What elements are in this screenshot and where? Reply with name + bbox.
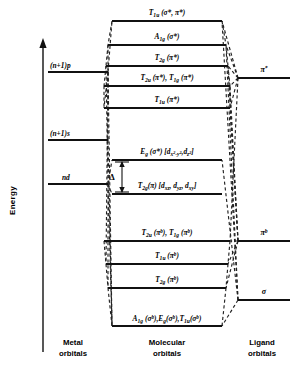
corr-p-to-t1u-star [108,21,112,72]
mo-level-sigma-b-label: A1g (σb),Eg(σb),T1u(σb) [132,314,202,324]
caption-molecular-line1: Molecular [149,338,185,347]
energy-axis: Energy [8,38,47,352]
mo-level-t2g-star-label: T2g (π*) [155,53,180,63]
mo-level-t1u-star-label: T1u (σ*, π*) [149,8,185,18]
metal-level-p-label: (n+1)p [50,61,71,70]
mo-level-t2g-label: T2g(π) [dxz, dyz, dxy] [138,181,197,191]
diagram-canvas: Energy [0,0,297,367]
ligand-level-pi-star-label: π* [260,65,267,74]
column-captions: Metal orbitals Molecular orbitals Ligand… [59,338,277,358]
mo-energy-level-diagram: Energy [0,0,297,367]
delta-splitting-annotation: Δ [109,161,129,193]
edge-t2g-t2u-left [104,66,106,86]
ligand-level-pi-b-label: πb [260,228,267,237]
mo-level-t2g-b-label: T2g (πb) [155,275,179,285]
caption-ligand-line1: Ligand [249,338,275,347]
caption-metal-line2: orbitals [59,349,88,358]
metal-level-d-label: nd [62,173,70,182]
corr-pistar-to-t2u-t1g-star [230,78,238,86]
mo-level-t2u-t1g-b-label: T2u (πb), T1g (πb) [141,228,192,238]
mo-level-t1u-star-lower-label: T1u (π*) [155,95,180,105]
edge-t2ub-t1ub-right [228,241,230,264]
ligand-level-sigma-label: σ [262,287,267,296]
mo-level-t1u-b-label: T1u (πb) [155,251,179,261]
mo-level-t2u-t1g-star-label: T2u (π*), T1g (π*) [140,73,193,83]
ligand-orbital-levels: π* πb σ [238,65,290,300]
edge-t1ub-t2gb-right [226,264,228,288]
caption-metal-line1: Metal [63,338,83,347]
corr-pistar-to-t1u-star [222,21,238,78]
metal-level-s-label: (n+1)s [50,129,70,138]
corr-sigma-to-sigma-b [222,300,238,326]
energy-axis-arrowhead [39,38,46,48]
energy-axis-label: Energy [8,186,17,215]
mo-level-eg-star-label: Eg (σ*) [dx2-y2,dz2] [139,147,194,157]
mo-level-a1g-star-label: A1g (σ*) [154,32,180,42]
metal-orbital-levels: (n+1)p (n+1)s nd [48,61,108,184]
caption-ligand-line2: orbitals [248,349,277,358]
caption-molecular-line2: orbitals [153,349,182,358]
delta-label: Δ [109,173,114,182]
corr-sigma-to-eg-star [222,160,238,300]
